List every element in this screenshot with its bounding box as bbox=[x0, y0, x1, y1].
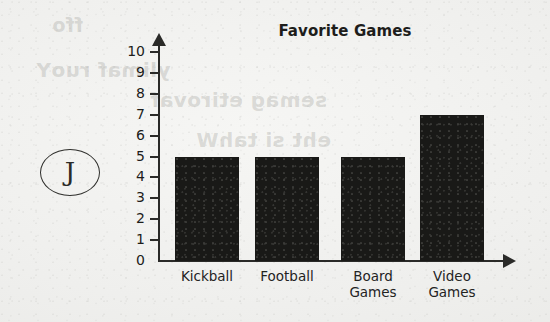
y-axis-tick-8 bbox=[150, 93, 159, 95]
y-axis-tick-label-8: 8 bbox=[113, 86, 145, 100]
category-label-line: Football bbox=[243, 268, 331, 284]
y-axis-tick-3 bbox=[150, 197, 159, 199]
tick-label-text: 10 bbox=[115, 44, 145, 58]
y-axis-tick-1 bbox=[150, 239, 159, 241]
bar-board-games bbox=[341, 157, 405, 262]
y-axis-tick-label-9: 9 bbox=[113, 65, 145, 79]
y-axis-tick-label-6: 6 bbox=[113, 128, 145, 142]
y-axis-tick-7 bbox=[150, 114, 159, 116]
y-axis-tick-label-0: 0 bbox=[113, 253, 145, 267]
y-axis-tick-9 bbox=[150, 72, 159, 74]
tick-label-text: 0 bbox=[115, 253, 145, 267]
y-axis-tick-label-7: 7 bbox=[113, 107, 145, 121]
category-label-football: Football bbox=[243, 268, 331, 284]
category-label-kickball: Kickball bbox=[163, 268, 251, 284]
tick-label-text: 2 bbox=[115, 211, 145, 225]
chart-title: Favorite Games bbox=[250, 22, 440, 40]
category-label-board-games: BoardGames bbox=[329, 268, 417, 300]
tick-label-text: 7 bbox=[115, 107, 145, 121]
category-label-line: Games bbox=[408, 284, 496, 300]
tick-label-text: 3 bbox=[115, 190, 145, 204]
tick-label-text: 9 bbox=[115, 65, 145, 79]
y-axis-tick-label-1: 1 bbox=[113, 232, 145, 246]
y-axis-line bbox=[158, 44, 160, 262]
y-axis-tick-label-10: 10 bbox=[113, 44, 145, 58]
bar-chart: Favorite Games 012345678910 KickballFoot… bbox=[0, 0, 550, 322]
tick-label-text: 5 bbox=[115, 149, 145, 163]
bar-football bbox=[255, 157, 319, 262]
y-axis-tick-10 bbox=[150, 51, 159, 53]
tick-label-text: 8 bbox=[115, 86, 145, 100]
bar-video-games bbox=[420, 115, 484, 261]
category-label-line: Board bbox=[329, 268, 417, 284]
worksheet-page: ffo ylimaf ruoY semag etirovaf eht si ta… bbox=[0, 0, 550, 322]
y-axis-tick-6 bbox=[150, 135, 159, 137]
category-label-line: Video bbox=[408, 268, 496, 284]
y-axis-tick-label-5: 5 bbox=[113, 149, 145, 163]
tick-label-text: 4 bbox=[115, 169, 145, 183]
x-axis-arrow-icon bbox=[503, 254, 516, 268]
tick-label-text: 6 bbox=[115, 128, 145, 142]
y-axis-tick-5 bbox=[150, 156, 159, 158]
y-axis-arrow-icon bbox=[152, 33, 166, 46]
y-axis-tick-label-4: 4 bbox=[113, 169, 145, 183]
category-label-line: Kickball bbox=[163, 268, 251, 284]
y-axis-tick-4 bbox=[150, 176, 159, 178]
y-axis-tick-2 bbox=[150, 218, 159, 220]
y-axis-tick-label-2: 2 bbox=[113, 211, 145, 225]
category-label-line: Games bbox=[329, 284, 417, 300]
y-axis-tick-label-3: 3 bbox=[113, 190, 145, 204]
category-label-video-games: VideoGames bbox=[408, 268, 496, 300]
tick-label-text: 1 bbox=[115, 232, 145, 246]
bar-kickball bbox=[175, 157, 239, 262]
